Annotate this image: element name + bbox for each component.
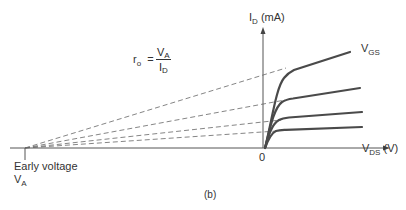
x-axis-label: VDS (V) xyxy=(362,143,398,154)
y-axis-subscript: D xyxy=(252,17,258,26)
formula-numerator: VA xyxy=(156,46,171,60)
vgs-curve-label: VGS xyxy=(361,43,380,54)
y-axis-unit: (mA) xyxy=(261,11,285,23)
curve-vgs-1 xyxy=(265,52,350,148)
curve-vgs-2 xyxy=(265,88,360,148)
early-voltage-label: Early voltage VA xyxy=(14,161,78,185)
early-voltage-subscript: A xyxy=(21,179,26,188)
early-voltage-text: Early voltage xyxy=(14,161,78,172)
formula-denominator: ID xyxy=(159,60,168,73)
output-resistance-formula: ro = xyxy=(133,54,154,65)
formula-equals: = xyxy=(147,53,153,65)
characteristic-curves xyxy=(265,52,362,148)
y-axis-arrow-icon xyxy=(261,27,266,34)
formula-fraction: VA ID xyxy=(156,46,171,73)
x-axis-unit: (V) xyxy=(384,142,399,154)
numerator-subscript: A xyxy=(164,51,169,60)
y-axis-label: ID (mA) xyxy=(249,12,285,23)
extrapolation-lines xyxy=(25,68,286,148)
vgs-subscript: GS xyxy=(368,48,380,57)
x-axis-subscript: DS xyxy=(369,148,380,157)
denominator-subscript: D xyxy=(162,66,168,75)
origin-label: 0 xyxy=(259,152,265,163)
formula-lhs-subscript: o xyxy=(137,59,141,68)
early-voltage-symbol-line: VA xyxy=(14,174,78,185)
curve-vgs-4 xyxy=(265,127,362,148)
figure-caption: (b) xyxy=(204,190,216,200)
